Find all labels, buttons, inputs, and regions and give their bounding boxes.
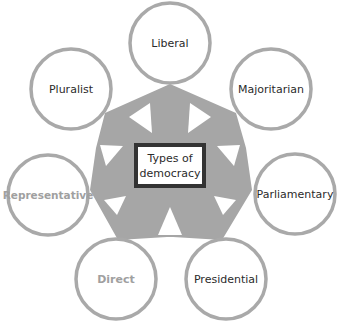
node-pluralist: Pluralist <box>31 49 111 129</box>
node-label-direct: Direct <box>97 273 135 286</box>
node-representative: Representative <box>3 155 94 235</box>
node-label-presidential: Presidential <box>194 273 258 286</box>
center-box: Types of democracy <box>136 145 204 186</box>
node-label-representative: Representative <box>3 189 94 201</box>
node-liberal: Liberal <box>130 3 210 83</box>
node-presidential: Presidential <box>186 239 266 319</box>
node-label-liberal: Liberal <box>151 37 188 50</box>
center-title-line2: democracy <box>139 167 201 180</box>
node-label-parliamentary: Parliamentary <box>257 188 334 201</box>
node-direct: Direct <box>76 239 156 319</box>
types-of-democracy-diagram: Types of democracy Liberal Majoritarian … <box>0 0 342 328</box>
node-majoritarian: Majoritarian <box>231 49 311 129</box>
center-title-line1: Types of <box>146 152 193 165</box>
node-label-pluralist: Pluralist <box>49 83 94 96</box>
node-parliamentary: Parliamentary <box>255 154 335 234</box>
node-label-majoritarian: Majoritarian <box>238 83 304 96</box>
